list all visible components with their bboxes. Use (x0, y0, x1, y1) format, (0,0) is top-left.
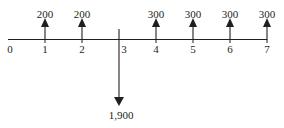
tick-label-5: 5 (190, 44, 196, 55)
cash-flow-timeline-diagram: 0 1 2 3 4 5 6 7 200 200 300 300 300 300 … (0, 0, 284, 128)
inflow-arrow-period-4 (152, 18, 160, 40)
tick-label-3: 3 (121, 44, 127, 55)
inflow-amount-period-6: 300 (222, 9, 239, 20)
tick-label-7: 7 (264, 44, 270, 55)
inflow-arrow-period-2 (78, 18, 86, 40)
inflow-amount-period-1: 200 (37, 9, 54, 20)
inflow-amount-period-5: 300 (185, 9, 202, 20)
inflow-amount-period-7: 300 (259, 9, 276, 20)
outflow-amount-period-3: 1,900 (109, 110, 134, 121)
inflow-arrow-period-6 (226, 18, 234, 40)
tick-label-6: 6 (227, 44, 233, 55)
inflow-arrow-period-7 (263, 18, 271, 40)
inflow-amount-period-4: 300 (148, 9, 165, 20)
tick-label-4: 4 (153, 44, 159, 55)
tick-label-2: 2 (79, 44, 85, 55)
tick-label-0: 0 (7, 44, 13, 55)
inflow-arrow-period-5 (189, 18, 197, 40)
inflow-amount-period-2: 200 (74, 9, 91, 20)
tick-label-1: 1 (42, 44, 48, 55)
outflow-arrow-period-3 (114, 29, 124, 106)
inflow-arrow-period-1 (41, 18, 49, 40)
